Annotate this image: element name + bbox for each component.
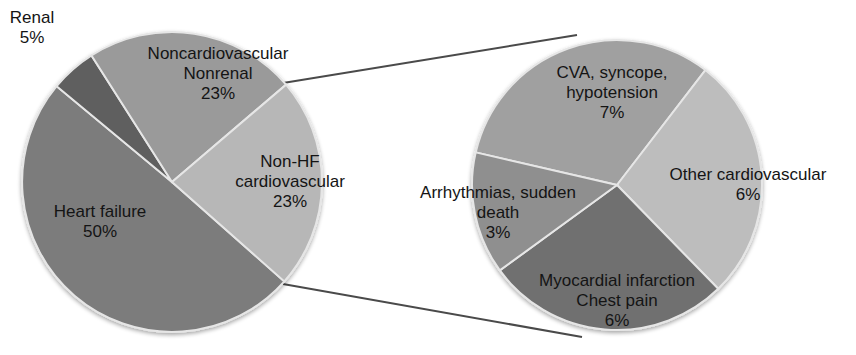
label-renal: Renal5% xyxy=(10,8,54,48)
label-noncardiovascular-nonrenal: NoncardiovascularNonrenal23% xyxy=(148,44,289,104)
label-cva-syncope-hypotension: CVA, syncope,hypotension7% xyxy=(556,63,667,123)
label-heart-failure: Heart failure50% xyxy=(54,202,147,242)
label-myocardial-infarction-chest-pain: Myocardial infarctionChest pain6% xyxy=(539,271,695,331)
label-arrhythmias-sudden-death: Arrhythmias, suddendeath3% xyxy=(420,183,576,243)
label-other-cardiovascular: Other cardiovascular6% xyxy=(670,165,827,205)
label-non-hf-cardiovascular: Non-HFcardiovascular23% xyxy=(235,152,345,212)
